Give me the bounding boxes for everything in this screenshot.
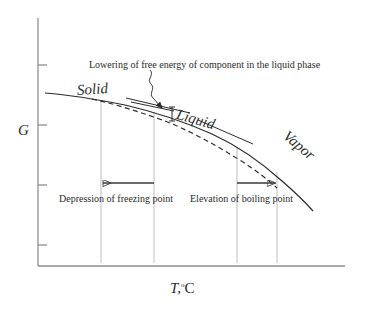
x-axis-label-unit: C [184,280,194,296]
tangent-liquid [131,102,174,111]
diagram-canvas [0,0,374,313]
freezing-point-caption: Depression of freezing point [59,194,173,204]
y-axis-ticks [38,65,47,245]
annotation-leader-line [149,70,162,108]
phase-diagram-figure: G T,oC Solid Liquid Vapor Lowering of fr… [0,0,374,313]
x-axis-label: T,oC [170,281,195,296]
phase-label-solid: Solid [77,81,109,98]
annotation-text: Lowering of free energy of component in … [89,60,320,70]
y-axis-label: G [18,123,29,138]
boiling-point-caption: Elevation of boiling point [190,194,293,204]
x-axis-label-symbol: T, [170,280,181,296]
